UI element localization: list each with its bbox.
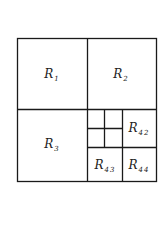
region-label-r42: R42: [129, 122, 150, 137]
region-label-r1: R1: [44, 68, 60, 83]
region-label-r43: R43: [95, 159, 116, 174]
region-label-r44: R44: [129, 159, 150, 174]
region-label-r44-sub: 44: [139, 166, 150, 174]
region-label-r42-sub: 42: [139, 129, 150, 137]
region-label-r43-base: R: [95, 158, 104, 172]
region-label-r44-base: R: [129, 158, 138, 172]
region-label-r3: R3: [44, 138, 60, 153]
region-label-r3-sub: 3: [54, 145, 59, 153]
region-label-r2-sub: 2: [123, 75, 128, 83]
region-label-r42-base: R: [129, 121, 138, 135]
region-label-r1-sub: 1: [54, 75, 59, 83]
region-label-r43-sub: 43: [105, 166, 116, 174]
region-label-r2-base: R: [113, 67, 122, 81]
region-label-r2: R2: [113, 68, 129, 83]
region-label-r1-base: R: [44, 67, 53, 81]
region-label-r3-base: R: [44, 137, 53, 151]
